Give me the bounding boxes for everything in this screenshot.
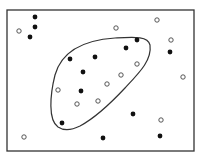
filled-point	[33, 25, 38, 30]
frame-border	[7, 10, 194, 151]
filled-point	[93, 55, 98, 60]
open-point	[105, 82, 109, 86]
filled-point	[68, 57, 73, 62]
open-point	[22, 135, 26, 139]
open-point	[75, 102, 79, 106]
open-point	[17, 29, 21, 33]
open-point	[56, 88, 60, 92]
filled-points	[28, 15, 173, 141]
filled-point	[60, 121, 65, 126]
scatter-region-diagram	[0, 0, 206, 163]
filled-point	[131, 112, 136, 117]
open-point	[114, 26, 118, 30]
open-points	[17, 18, 185, 139]
filled-point	[135, 38, 140, 43]
filled-point	[168, 50, 173, 55]
filled-point	[81, 70, 86, 75]
open-point	[155, 18, 159, 22]
open-point	[159, 118, 163, 122]
filled-point	[158, 134, 163, 139]
open-point	[135, 62, 139, 66]
open-point	[181, 75, 185, 79]
filled-point	[124, 46, 129, 51]
filled-point	[33, 15, 38, 20]
open-point	[119, 73, 123, 77]
open-point	[169, 38, 173, 42]
filled-point	[28, 35, 33, 40]
filled-point	[101, 136, 106, 141]
open-point	[96, 99, 100, 103]
region-boundary	[51, 37, 150, 129]
filled-point	[79, 89, 84, 94]
